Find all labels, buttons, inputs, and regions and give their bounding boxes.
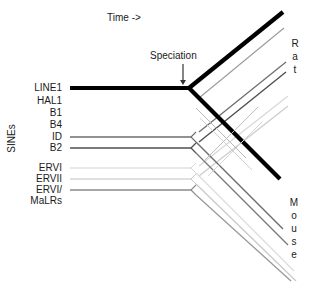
lineage-label-b4: B4 bbox=[0, 119, 62, 130]
fork-up-ervi bbox=[191, 163, 196, 168]
species-mouse-letter: s bbox=[288, 235, 300, 248]
species-mouse-letter: M bbox=[288, 196, 300, 209]
rat-branch-hal1 bbox=[199, 28, 284, 98]
lineage-label-id: ID bbox=[0, 131, 62, 142]
lineage-label-malrs: MaLRs bbox=[0, 195, 62, 206]
lineage-label-b1: B1 bbox=[0, 107, 62, 118]
mouse-branch-ervii bbox=[196, 184, 296, 281]
mouse-branch-ervi-malrs bbox=[196, 195, 291, 281]
fork-up-ervi bbox=[191, 185, 196, 190]
speciation-arrow bbox=[180, 64, 186, 85]
fork-down-ervii bbox=[191, 179, 196, 184]
lineage-label-line1: LINE1 bbox=[0, 82, 62, 93]
rat-branch-lines bbox=[189, 12, 288, 176]
lineage-label-ervi: ERVI bbox=[0, 162, 62, 173]
mouse-branch-ervi bbox=[196, 173, 294, 271]
species-label-mouse: Mouse bbox=[288, 196, 300, 261]
fork-up-ervii bbox=[191, 174, 196, 179]
phylogenetic-tree-figure: Time -> Speciation SINEs LINE1HAL1B1B4ID… bbox=[0, 0, 311, 282]
species-mouse-letter: e bbox=[288, 248, 300, 261]
lineage-label-ervii: ERVII bbox=[0, 173, 62, 184]
time-axis-label: Time -> bbox=[107, 13, 141, 23]
fork-down-ervi bbox=[191, 190, 196, 195]
fork-down-id bbox=[191, 137, 196, 142]
speciation-annotation-label: Speciation bbox=[150, 51, 197, 61]
cross-strand-1 bbox=[196, 108, 246, 158]
fork-down-ervi bbox=[191, 168, 196, 173]
species-mouse-letter: u bbox=[288, 222, 300, 235]
lineage-label-b2: B2 bbox=[0, 142, 62, 153]
lineage-label-ervi: ERVI/ bbox=[0, 184, 62, 195]
mouse-branch-line1 bbox=[189, 88, 280, 179]
fork-up-b2 bbox=[191, 143, 196, 148]
rat-branch-line1 bbox=[189, 12, 283, 88]
fork-up-id bbox=[191, 132, 196, 137]
species-mouse-letter: o bbox=[288, 209, 300, 222]
fork-connector-lines bbox=[191, 132, 196, 195]
mouse-branch-b2 bbox=[196, 153, 288, 245]
mouse-branch-lines bbox=[189, 88, 296, 281]
species-rat-letter: a bbox=[289, 50, 301, 63]
fork-down-b2 bbox=[191, 148, 196, 153]
species-rat-letter: t bbox=[289, 63, 301, 76]
lineage-label-hal1: HAL1 bbox=[0, 95, 62, 106]
species-rat-letter: R bbox=[289, 37, 301, 50]
rat-branch-id bbox=[199, 62, 286, 132]
horizontal-lineage-lines bbox=[70, 88, 191, 190]
species-label-rat: Rat bbox=[289, 37, 301, 76]
